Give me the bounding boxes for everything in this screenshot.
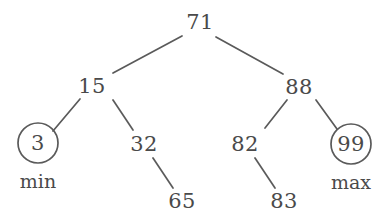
tree-edge-n15-n32 bbox=[113, 100, 133, 130]
annotation-max: max bbox=[331, 173, 371, 192]
tree-edge-n88-n99 bbox=[316, 100, 337, 129]
tree-node-3: 3 bbox=[31, 133, 45, 154]
tree-node-82: 82 bbox=[231, 134, 259, 155]
edge-layer bbox=[53, 36, 337, 188]
node-circle-layer bbox=[18, 123, 371, 164]
tree-node-65: 65 bbox=[168, 191, 196, 212]
annotation-min: min bbox=[20, 172, 56, 191]
bst-diagram: 71158833282996583 minmax bbox=[0, 0, 392, 222]
tree-node-15: 15 bbox=[78, 76, 106, 97]
tree-edge-n15-n3 bbox=[53, 99, 80, 131]
tree-node-99: 99 bbox=[337, 134, 365, 155]
tree-node-88: 88 bbox=[285, 77, 313, 98]
tree-edge-n32-n65 bbox=[153, 158, 173, 188]
tree-node-32: 32 bbox=[130, 134, 158, 155]
tree-node-83: 83 bbox=[270, 191, 298, 212]
tree-edge-n71-n15 bbox=[113, 36, 182, 73]
tree-edge-n88-n82 bbox=[265, 100, 287, 128]
tree-edge-n71-n88 bbox=[216, 37, 283, 74]
tree-node-71: 71 bbox=[186, 12, 214, 33]
tree-edge-n82-n83 bbox=[255, 158, 275, 188]
